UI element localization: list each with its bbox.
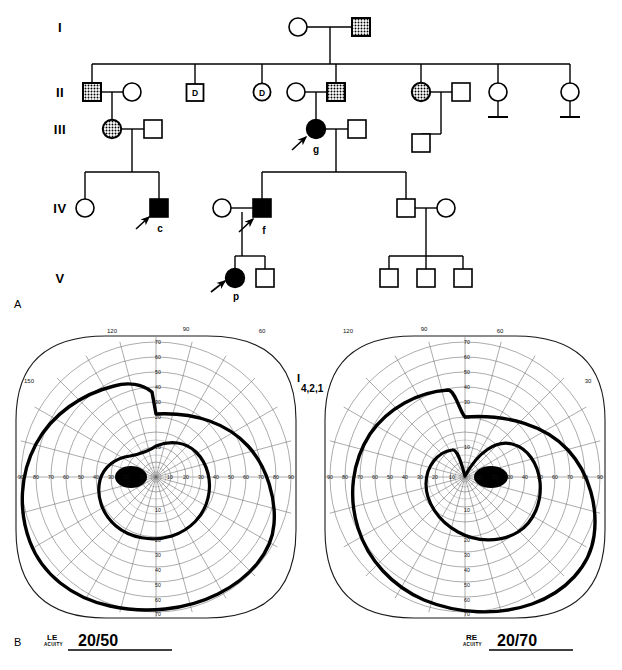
svg-text:10: 10 — [167, 474, 173, 480]
panel-b-letter: B — [14, 636, 21, 648]
pedigree-symbol-v-1-female-affected[interactable] — [226, 269, 245, 288]
pedigree-symbol-i-1-female-unaffected[interactable] — [289, 18, 307, 36]
svg-text:70: 70 — [464, 611, 470, 617]
deceased-marker-ii-3: D — [192, 88, 198, 98]
pedigree-symbol-iv-5-male-unaffected[interactable] — [397, 199, 415, 217]
pedigree-symbol-ii-7-female-carrier[interactable] — [412, 83, 430, 101]
svg-text:20: 20 — [464, 537, 470, 543]
svg-text:40: 40 — [155, 567, 161, 573]
pedigree-symbol-iv-1-female-unaffected[interactable] — [76, 199, 94, 217]
pedigree-symbol-v-3-male-unaffected[interactable] — [380, 269, 398, 287]
left-angle-label-60: 60 — [259, 328, 266, 334]
svg-text:80: 80 — [33, 474, 39, 480]
svg-text:60: 60 — [155, 597, 161, 603]
proband-label-g: g — [313, 144, 319, 155]
svg-text:90: 90 — [18, 474, 24, 480]
svg-text:60: 60 — [464, 597, 470, 603]
svg-text:80: 80 — [342, 474, 348, 480]
svg-text:50: 50 — [228, 474, 234, 480]
pedigree-symbol-ii-9-female-unaffected[interactable] — [489, 83, 507, 101]
svg-text:70: 70 — [357, 474, 363, 480]
panel-a-letter: A — [14, 298, 22, 310]
pedigree-symbol-iii-3-female-affected[interactable] — [307, 120, 326, 139]
pedigree-symbol-ii-6-male-carrier[interactable] — [327, 83, 345, 101]
svg-text:70: 70 — [464, 339, 470, 345]
pedigree-symbol-iv-4-male-affected[interactable] — [253, 199, 271, 217]
right-angle-label-90: 90 — [421, 326, 428, 332]
svg-text:30: 30 — [155, 552, 161, 558]
svg-text:60: 60 — [63, 474, 69, 480]
svg-text:30: 30 — [417, 474, 423, 480]
svg-text:60: 60 — [155, 354, 161, 360]
svg-text:40: 40 — [402, 474, 408, 480]
svg-text:60: 60 — [464, 354, 470, 360]
svg-text:40: 40 — [464, 384, 470, 390]
generation-label-v: V — [55, 271, 64, 286]
right-eye-chart: 120 90 60 30 90 80 70 60 50 40 30 20 10 … — [325, 326, 605, 618]
left-acuity-word: ACUITY — [44, 642, 63, 647]
svg-text:10: 10 — [449, 474, 455, 480]
pedigree-symbol-iii-5-male-unaffected[interactable] — [412, 134, 430, 152]
right-acuity-value: 20/70 — [497, 632, 537, 649]
pedigree-symbol-iii-2-male-unaffected[interactable] — [144, 120, 162, 138]
pedigree-symbol-v-4-male-unaffected[interactable] — [417, 269, 435, 287]
right-angle-label-30: 30 — [585, 378, 592, 384]
svg-text:40: 40 — [93, 474, 99, 480]
pedigree-symbol-iv-6-female-unaffected[interactable] — [437, 199, 455, 217]
left-angle-label-90: 90 — [183, 326, 190, 332]
svg-text:80: 80 — [582, 474, 588, 480]
pedigree-symbol-i-2-male-carrier[interactable] — [352, 18, 370, 36]
svg-text:30: 30 — [507, 474, 513, 480]
pedigree-symbol-v-2-male-unaffected[interactable] — [256, 269, 274, 287]
svg-text:20: 20 — [183, 474, 189, 480]
svg-text:30: 30 — [155, 399, 161, 405]
pedigree-symbol-iv-3-female-unaffected[interactable] — [213, 199, 231, 217]
svg-text:10: 10 — [155, 507, 161, 513]
pedigree-symbol-ii-10-female-unaffected[interactable] — [561, 83, 579, 101]
svg-text:10: 10 — [464, 444, 470, 450]
proband-label-c: c — [157, 223, 163, 234]
pedigree-symbol-v-5-male-unaffected[interactable] — [454, 269, 472, 287]
pedigree-symbol-ii-1-male-carrier[interactable] — [83, 83, 101, 101]
svg-text:60: 60 — [372, 474, 378, 480]
right-eye-label: RE — [466, 633, 478, 642]
svg-text:20: 20 — [155, 537, 161, 543]
svg-text:30: 30 — [464, 552, 470, 558]
isopter-legend-roman: I — [297, 372, 300, 384]
pedigree-symbol-ii-2-female-unaffected[interactable] — [123, 83, 141, 101]
svg-text:10: 10 — [140, 474, 146, 480]
generation-label-i: I — [58, 20, 62, 35]
generation-label-iv: IV — [53, 201, 66, 216]
right-angle-label-120: 120 — [343, 328, 354, 334]
svg-text:20: 20 — [155, 414, 161, 420]
right-angle-label-60: 60 — [497, 328, 504, 334]
svg-text:50: 50 — [78, 474, 84, 480]
svg-text:50: 50 — [155, 582, 161, 588]
svg-text:70: 70 — [155, 339, 161, 345]
svg-text:20: 20 — [464, 414, 470, 420]
proband-label-p: p — [233, 291, 239, 302]
pedigree-symbol-iv-2-male-affected[interactable] — [150, 199, 168, 217]
svg-text:90: 90 — [327, 474, 333, 480]
svg-text:90: 90 — [288, 474, 294, 480]
figure-container: I II III IV V — [0, 0, 622, 670]
svg-text:80: 80 — [273, 474, 279, 480]
left-grid-spokes — [16, 337, 296, 617]
svg-text:50: 50 — [537, 474, 543, 480]
svg-text:50: 50 — [155, 369, 161, 375]
svg-text:40: 40 — [522, 474, 528, 480]
svg-text:70: 70 — [155, 611, 161, 617]
deceased-marker-ii-4: D — [259, 88, 265, 98]
left-eye-chart: 150 120 90 60 90 80 70 60 50 40 30 20 10… — [16, 326, 296, 618]
left-eye-label: LE — [47, 633, 58, 642]
figure-svg: I II III IV V — [0, 0, 622, 670]
svg-text:60: 60 — [243, 474, 249, 480]
svg-text:30: 30 — [198, 474, 204, 480]
svg-text:20: 20 — [432, 474, 438, 480]
generation-label-ii: II — [56, 85, 64, 100]
svg-text:40: 40 — [155, 384, 161, 390]
pedigree-symbol-ii-8-male-unaffected[interactable] — [452, 83, 470, 101]
pedigree-symbol-iii-4-male-unaffected[interactable] — [348, 120, 366, 138]
pedigree-symbol-iii-1-female-carrier[interactable] — [103, 120, 121, 138]
pedigree-symbol-ii-5-female-unaffected[interactable] — [287, 83, 305, 101]
